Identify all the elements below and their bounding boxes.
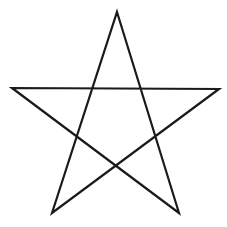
pentagram-star-icon xyxy=(0,0,227,227)
diagram-canvas xyxy=(0,0,227,227)
star-outline xyxy=(12,12,219,213)
